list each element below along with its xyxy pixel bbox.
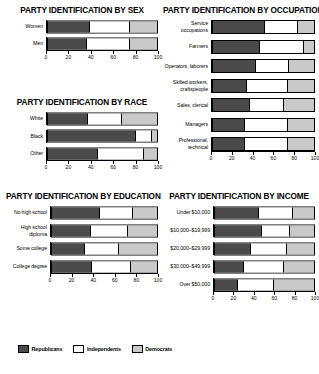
bar-segment-ind: [255, 60, 288, 72]
bar-segment-rep: [48, 21, 89, 32]
bar-row: Professional, technical: [163, 137, 315, 151]
bar-segment-rep: [48, 113, 87, 124]
stacked-bar[interactable]: [212, 59, 315, 73]
stacked-bar[interactable]: [212, 79, 315, 93]
party-identification-chart-sheet: PARTY IDENTIFICATION BY SEX WomenMen0204…: [0, 0, 319, 374]
category-label: Some college: [6, 245, 50, 252]
axis-tick-label: 0: [45, 54, 48, 60]
bar-row: College degree: [6, 260, 158, 273]
stacked-bar[interactable]: [47, 147, 158, 160]
axis-tick-label: 20: [66, 54, 72, 60]
bar-row: Black: [6, 130, 158, 143]
stacked-bar[interactable]: [214, 206, 315, 219]
category-label: Men: [6, 40, 46, 47]
bar-segment-ind: [249, 99, 283, 111]
stacked-bar[interactable]: [51, 224, 158, 237]
stacked-bar[interactable]: [47, 20, 158, 33]
stacked-bar[interactable]: [51, 206, 158, 219]
category-label: $20,000–$29,999: [163, 245, 213, 252]
plot-area: [50, 224, 158, 237]
stacked-bar[interactable]: [214, 260, 315, 273]
axis-tick-label: 60: [271, 295, 277, 301]
category-label: Women: [6, 23, 46, 30]
axis-tick-label: 80: [291, 155, 297, 161]
bar-segment-dem: [128, 225, 157, 236]
legend-swatch-rep-icon: [18, 345, 29, 353]
axis-tick-label: 100: [154, 277, 162, 283]
stacked-bar[interactable]: [214, 242, 315, 255]
axis-tick-label: 80: [133, 54, 139, 60]
panel-party-identification-by-occupation: PARTY IDENTIFICATION BY OCCUPATION Servi…: [163, 6, 315, 161]
bar-segment-ind: [99, 207, 133, 218]
axis-tick-label: 100: [154, 54, 162, 60]
bar-segment-ind: [97, 148, 144, 159]
bar-segment-dem: [152, 131, 157, 142]
stacked-bar[interactable]: [47, 37, 158, 50]
axis-tick-label: 40: [88, 164, 94, 170]
stacked-bar[interactable]: [212, 137, 315, 151]
category-label: Black: [6, 133, 46, 140]
x-axis-wrapper: 020406080100: [6, 273, 158, 283]
axis-spacer: [163, 291, 213, 301]
bar-segment-ind: [84, 243, 120, 254]
bar-segment-rep: [52, 243, 84, 254]
bar-segment-dem: [287, 243, 314, 254]
axis-tick-label: 20: [66, 164, 72, 170]
bar-segment-dem: [284, 99, 314, 111]
bar-segment-dem: [284, 261, 314, 272]
panel-party-identification-by-income: PARTY IDENTIFICATION BY INCOME Under $10…: [163, 192, 315, 301]
legend: RepublicansIndependentsDemocrats: [18, 345, 179, 353]
stacked-bar[interactable]: [51, 242, 158, 255]
bar-segment-ind: [259, 41, 303, 53]
axis-tick-label: 100: [154, 164, 162, 170]
legend-label: Republicans: [32, 346, 63, 352]
plot-area: [211, 59, 315, 73]
x-axis-wrapper: 020406080100: [163, 291, 315, 301]
bar-segment-dem: [130, 38, 157, 49]
category-label: $30,000–$49,999: [163, 263, 213, 270]
axis-spacer: [6, 160, 46, 170]
category-label: Skilled workers, craftspeople: [163, 79, 211, 92]
stacked-bar[interactable]: [212, 40, 315, 54]
stacked-bar[interactable]: [212, 118, 315, 132]
stacked-bar[interactable]: [214, 278, 315, 291]
axis-tick-label: 20: [231, 295, 237, 301]
category-label: $10,000–$19,999: [163, 227, 213, 234]
bar-row: Managers: [163, 118, 315, 132]
category-label: College degree: [6, 263, 50, 270]
plot-area: [211, 137, 315, 151]
plot-area: [213, 260, 315, 273]
category-label: Service occupations: [163, 20, 211, 33]
bar-segment-dem: [122, 113, 157, 124]
category-label: Operators, laborers: [163, 63, 211, 70]
bar-row: Farmers: [163, 40, 315, 54]
plot-area: [213, 206, 315, 219]
stacked-bar[interactable]: [51, 260, 158, 273]
axis-tick-label: 0: [210, 155, 213, 161]
panel-party-identification-by-education: PARTY IDENTIFICATION BY EDUCATION No hig…: [6, 192, 158, 283]
panel-party-identification-by-race: PARTY IDENTIFICATION BY RACE WhiteBlackO…: [6, 98, 158, 170]
stacked-bar[interactable]: [47, 112, 158, 125]
plot-area: [46, 112, 158, 125]
bar-segment-rep: [48, 131, 135, 142]
axis-tick-label: 80: [134, 277, 140, 283]
x-axis: 020406080100: [46, 50, 158, 60]
plot-area: [46, 130, 158, 143]
bar-rows: Service occupationsFarmersOperators, lab…: [163, 20, 315, 151]
stacked-bar[interactable]: [212, 98, 315, 112]
stacked-bar[interactable]: [214, 224, 315, 237]
stacked-bar[interactable]: [47, 130, 158, 143]
panel-title-race: PARTY IDENTIFICATION BY RACE: [6, 98, 158, 107]
bar-segment-rep: [213, 21, 264, 33]
bar-segment-dem: [293, 207, 314, 218]
bar-segment-ind: [244, 138, 287, 150]
bar-segment-rep: [52, 225, 90, 236]
legend-label: Independents: [87, 346, 121, 352]
chart-education: No high schoolHigh school diplomaSome co…: [6, 206, 158, 283]
category-label: High school diploma: [6, 224, 50, 237]
plot-area: [213, 242, 315, 255]
stacked-bar[interactable]: [212, 20, 315, 34]
bar-row: Some college: [6, 242, 158, 255]
bar-row: Skilled workers, craftspeople: [163, 79, 315, 93]
bar-segment-ind: [135, 131, 151, 142]
